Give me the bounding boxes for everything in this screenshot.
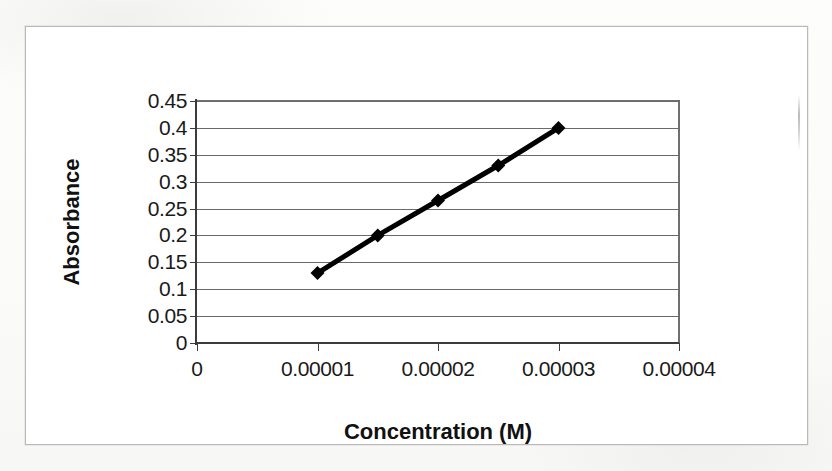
x-axis-tick (438, 343, 439, 351)
y-axis-tick (190, 316, 197, 317)
x-axis-tick-label: 0.00002 (401, 357, 474, 381)
y-axis-title: Absorbance (59, 158, 85, 285)
data-series-layer (197, 101, 679, 343)
x-axis-tick (679, 343, 680, 351)
x-axis-tick-label: 0.00004 (642, 357, 715, 381)
x-axis-tick-label: 0 (191, 357, 202, 381)
y-axis-tick (190, 155, 197, 156)
y-axis-tick (190, 289, 197, 290)
y-axis-tick-label: 0.45 (148, 89, 187, 113)
y-axis-tick-label: 0.2 (159, 223, 187, 247)
y-axis-tick-label: 0.3 (159, 170, 187, 194)
x-axis-tick (197, 343, 198, 351)
y-axis-tick (190, 235, 197, 236)
y-axis-tick (190, 209, 197, 210)
x-axis-tick (559, 343, 560, 351)
y-axis-tick-label: 0.1 (159, 277, 187, 301)
y-axis-tick-label: 0 (176, 331, 187, 355)
y-axis-tick (190, 182, 197, 183)
x-axis-title: Concentration (M) (344, 419, 532, 445)
y-axis-tick (190, 262, 197, 263)
plot-area: 00.050.10.150.20.250.30.350.40.45 00.000… (197, 101, 679, 343)
screenshot-root: Absorbance Concentration (M) 00.050.10.1… (0, 0, 832, 471)
y-axis-tick-label: 0.35 (148, 143, 187, 167)
scan-artifact-mark (798, 95, 800, 151)
y-axis-tick-label: 0.15 (148, 250, 187, 274)
x-axis-tick-label: 0.00003 (522, 357, 595, 381)
y-axis-tick (190, 343, 197, 344)
y-axis-tick (190, 101, 197, 102)
x-axis-tick (318, 343, 319, 351)
y-axis-tick-label: 0.4 (159, 116, 187, 140)
y-axis-tick-label: 0.05 (148, 304, 187, 328)
y-axis-tick (190, 128, 197, 129)
chart-frame: Absorbance Concentration (M) 00.050.10.1… (25, 26, 808, 445)
x-axis-tick-label: 0.00001 (281, 357, 354, 381)
y-axis-tick-label: 0.25 (148, 197, 187, 221)
